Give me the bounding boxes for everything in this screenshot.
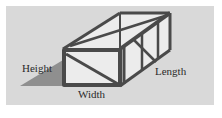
width-label: Width [78, 88, 105, 100]
height-label: Height [22, 62, 52, 74]
box-frame-diagram [0, 0, 222, 118]
length-label: Length [155, 65, 186, 77]
